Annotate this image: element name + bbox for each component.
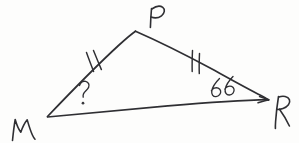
side-mp [48,31,136,116]
degree-mark-dot-m [82,102,85,105]
triangle-diagram-canvas [0,0,299,143]
vertex-label-m [13,120,36,141]
side-mr [48,100,269,117]
vertex-label-r [275,96,289,128]
triangle-figure: M P R ? ° 66 [0,0,299,143]
angle-label-m-unknown [80,81,90,104]
side-pr [136,31,269,100]
tick-mark-mp-1 [87,53,94,72]
vertex-label-p [150,6,164,27]
angle-label-r-66 [211,77,234,97]
triangle-sides [48,31,269,117]
